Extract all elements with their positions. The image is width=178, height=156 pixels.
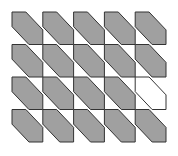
tile-filled-r4-c5 — [135, 110, 166, 143]
tile-filled-r1-c3 — [74, 12, 105, 45]
tile-filled-r2-c5 — [135, 45, 166, 78]
tile-empty-r3-c5 — [135, 77, 166, 110]
tile-filled-r1-c1 — [12, 12, 43, 45]
tile-filled-r2-c1 — [12, 45, 43, 78]
tile-filled-r1-c4 — [104, 12, 135, 45]
tile-filled-r2-c4 — [104, 45, 135, 78]
tile-filled-r4-c3 — [74, 110, 105, 143]
tile-filled-r1-c2 — [43, 12, 74, 45]
tile-filled-r2-c3 — [74, 45, 105, 78]
tile-filled-r3-c4 — [104, 77, 135, 110]
tile-filled-r2-c2 — [43, 45, 74, 78]
tile-filled-r3-c2 — [43, 77, 74, 110]
tile-filled-r4-c1 — [12, 110, 43, 143]
tile-filled-r3-c3 — [74, 77, 105, 110]
tile-filled-r4-c2 — [43, 110, 74, 143]
tile-filled-r3-c1 — [12, 77, 43, 110]
tile-filled-r1-c5 — [135, 12, 166, 45]
tile-filled-r4-c4 — [104, 110, 135, 143]
tile-grid-figure — [0, 0, 178, 156]
